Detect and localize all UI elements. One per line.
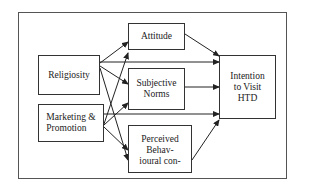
node-religiosity-label: Religiosity: [48, 70, 90, 81]
node-subjective-norms-label: Subjective Norms: [136, 78, 176, 100]
node-perceived-behavioural-control-label: Perceived Behav- ioural con-: [139, 134, 180, 167]
node-intention-to-visit: Intention to Visit HTD: [219, 55, 276, 119]
node-intention-to-visit-label: Intention to Visit HTD: [230, 71, 264, 104]
arrow-marketing-perceived: [104, 127, 128, 150]
node-marketing-promotion: Marketing & Promotion: [38, 104, 104, 142]
arrow-perceived-intention: [192, 120, 219, 160]
arrow-attitude-intention: [185, 34, 219, 56]
node-marketing-promotion-label: Marketing & Promotion: [46, 112, 95, 134]
node-attitude-label: Attitude: [141, 31, 172, 42]
arrow-religiosity-attitude: [100, 42, 128, 63]
node-attitude: Attitude: [128, 23, 185, 50]
node-perceived-behavioural-control: Perceived Behav- ioural con-: [128, 125, 192, 173]
node-subjective-norms: Subjective Norms: [128, 68, 185, 110]
node-religiosity: Religiosity: [38, 55, 100, 95]
